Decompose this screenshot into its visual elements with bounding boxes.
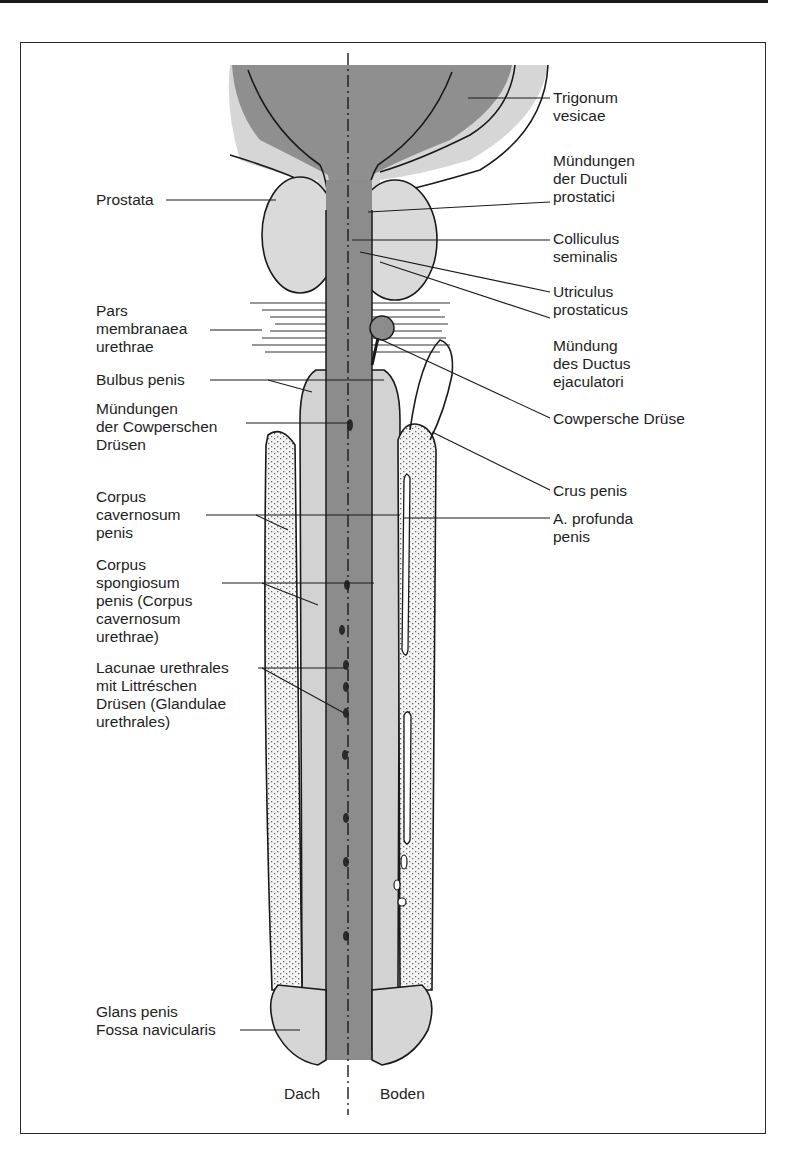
label-muendungen-cowper: Mündungen der Cowperschen Drüsen <box>96 400 217 454</box>
cowper-gland <box>370 316 394 340</box>
glans-penis <box>271 985 326 1065</box>
label-utriculus-prostaticus: Utriculus prostaticus <box>553 283 628 319</box>
label-muendungen-ductuli: Mündungen der Ductuli prostatici <box>553 152 635 206</box>
label-muendung-ductus: Mündung des Ductus ejaculatori <box>553 337 631 391</box>
label-bulbus-penis: Bulbus penis <box>96 371 185 389</box>
label-glans-penis: Glans penis Fossa navicularis <box>96 1003 216 1039</box>
label-corpus-spongiosum: Corpus spongiosum penis (Corpus cavernos… <box>96 556 193 646</box>
label-lacunae-urethrales: Lacunae urethrales mit Littréschen Drüse… <box>96 659 229 731</box>
urethra-lumen <box>326 180 372 1060</box>
a-profunda-vessel <box>402 474 410 655</box>
label-corpus-cavernosum: Corpus cavernosum penis <box>96 488 180 542</box>
label-cowpersche-druese: Cowpersche Drüse <box>553 410 685 428</box>
label-crus-penis: Crus penis <box>553 482 627 500</box>
label-a-profunda-penis: A. profunda penis <box>553 510 633 546</box>
label-prostata: Prostata <box>96 191 154 209</box>
label-pars-membranacea: Pars membranaea urethrae <box>96 302 187 356</box>
label-boden: Boden <box>380 1085 425 1103</box>
label-colliculus-seminalis: Colliculus seminalis <box>553 230 619 266</box>
label-dach: Dach <box>284 1085 320 1103</box>
label-trigonum-vesicae: Trigonum vesicae <box>553 89 618 125</box>
